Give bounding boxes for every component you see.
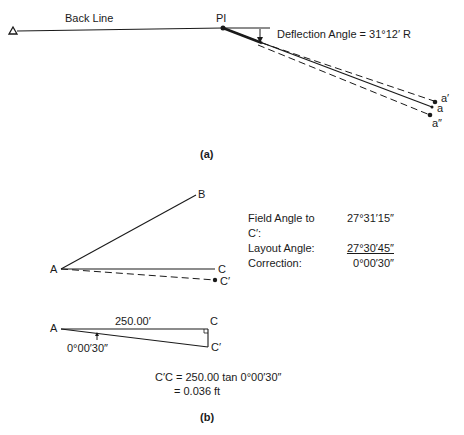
point-c-prime [213,278,217,282]
line-ac-prime [61,269,215,280]
station-triangle-icon [9,27,17,34]
back-line-label: Back Line [65,13,113,24]
equation-line-1: C′C = 250.00 tan 0°00′30″ [155,370,281,384]
point-a-label-upper: A [50,264,57,275]
point-b-label: B [198,189,205,200]
angle-correction-table: Field Angle to C′: 27°31′15″ Layout Angl… [248,211,394,271]
point-a [431,106,434,109]
figure-a-caption: (a) [200,149,213,160]
correction-value: 0°00′30″ [324,256,394,271]
dashed-line-a-double-prime [258,45,430,115]
field-angle-label: Field Angle to C′: [248,211,324,241]
figure-b-caption: (b) [200,412,214,423]
table-row-correction: Correction: 0°00′30″ [248,256,394,271]
triangle-point-c-prime-label: C′ [211,342,221,353]
correction-label: Correction: [248,256,324,271]
pi-point [221,26,226,31]
distance-label: 250.00′ [115,316,151,327]
layout-angle-value: 27°30′45″ [324,241,394,256]
point-c-label: C [218,264,226,275]
dashed-line-a-prime [262,43,434,101]
figure-a-lines [9,27,434,115]
triangle-point-a-label: A [50,323,57,334]
table-row-layout-angle: Layout Angle: 27°30′45″ [248,241,394,256]
small-angle-label: 0°00′30″ [67,343,108,354]
line-ab [61,195,196,269]
point-a-label: a [437,103,443,114]
back-line [17,28,223,31]
triangle-point-c-label: C [210,316,218,327]
field-angle-value: 27°31′15″ [324,211,394,241]
table-row-field-angle: Field Angle to C′: 27°31′15″ [248,211,394,241]
figure-b-angle-lines [61,195,215,280]
point-a-double-prime-label: a″ [432,118,442,129]
point-c-prime-label: C′ [220,276,230,287]
right-angle-marker [204,329,208,333]
layout-angle-label: Layout Angle: [248,241,324,256]
deflection-line-heavy [223,28,262,43]
pi-label: PI [216,13,226,24]
deflection-angle-label: Deflection Angle = 31°12′ R [277,29,411,40]
equation-line-2: = 0.036 ft [174,384,220,398]
